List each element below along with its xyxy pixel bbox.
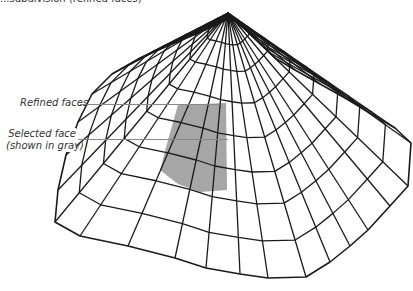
mesh-ring [124,17,338,172]
selected-face-label-line2: (shown in gray) [6,140,76,152]
selected-face-label: Selected face (shown in gray) [6,128,76,152]
mesh-edge [228,13,320,84]
mesh-edge [92,13,228,94]
refined-faces-label: Refined faces [20,97,76,109]
selected-face-leader [78,139,228,140]
refined-faces-leader [80,104,220,105]
mesh-edge [228,13,350,246]
mesh-ring [103,18,359,204]
mesh-edge [228,13,368,230]
mesh-ring [55,20,411,278]
selected-face-label-line1: Selected face [6,128,76,140]
